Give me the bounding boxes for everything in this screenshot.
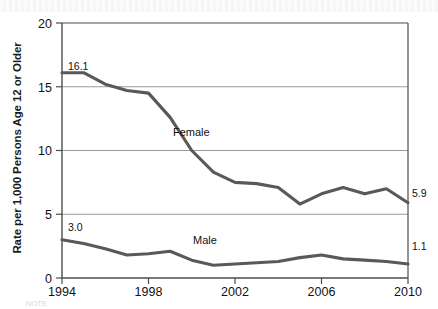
y-tick-label-0: 0 (45, 272, 52, 286)
series-label-female: Female (173, 126, 210, 138)
x-tick-label-2002: 2002 (221, 285, 249, 299)
chart-canvas: 20 15 10 5 0 1994 1998 2002 2006 2010 16… (0, 0, 438, 309)
series-line-male (62, 240, 408, 266)
x-tick-label-1998: 1998 (135, 285, 163, 299)
annotation-female-start: 16.1 (68, 60, 89, 72)
x-tick-marks (62, 278, 408, 284)
gridlines (62, 87, 408, 215)
annotation-male-end: 1.1 (412, 240, 427, 252)
y-tick-label-20: 20 (38, 17, 52, 31)
annotation-female-end: 5.9 (412, 187, 427, 199)
y-tick-label-15: 15 (38, 81, 52, 95)
x-tick-label-1994: 1994 (48, 285, 76, 299)
chart-figure: Rate per 1,000 Persons Age 12 or Older 2… (0, 0, 438, 309)
footer-note: NOTE: (26, 299, 426, 309)
x-tick-label-2010: 2010 (394, 285, 422, 299)
y-tick-label-10: 10 (38, 144, 52, 158)
y-tick-label-5: 5 (45, 208, 52, 222)
series-line-female (62, 73, 408, 204)
annotation-male-start: 3.0 (68, 221, 83, 233)
series-label-male: Male (193, 234, 217, 246)
x-tick-label-2006: 2006 (308, 285, 336, 299)
